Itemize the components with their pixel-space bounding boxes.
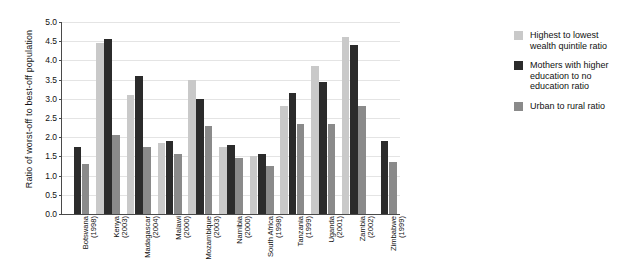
x-tick-year: (1999) [398,216,406,278]
y-axis-title: Ratio of worst-off to best-off populatio… [24,4,34,214]
x-tick-label: Mozambique(2003) [205,216,222,278]
bar [342,37,350,214]
x-tick-year: (1998) [275,216,283,278]
x-tick-label: Uganda(2001) [328,216,345,278]
legend-swatch-icon [514,102,523,111]
x-tick-label: Madagascar(2004) [144,216,161,278]
bar [258,154,266,214]
x-tick-year: (2003) [214,216,222,278]
x-tick-label: Tanzania(1999) [297,216,314,278]
bar [205,126,213,214]
chart-legend: Highest to lowest wealth quintile ratioM… [514,30,622,121]
x-tick-label: South Africa(1998) [267,216,284,278]
x-axis-line [61,214,400,215]
y-tick-label: 5.0 [45,18,57,26]
bar [389,162,397,214]
bar [289,93,297,214]
x-tick-year: (2003) [121,216,129,278]
plot-area: 5.04.54.03.53.02.52.01.51.00.50.0 [62,22,400,214]
bar [235,158,243,214]
y-tick-label: 4.5 [45,37,57,45]
y-tick-label: 1.5 [45,152,57,160]
x-tick-year: (2000) [183,216,191,278]
x-tick-label: Botswana(1998) [82,216,99,278]
y-tick-label: 1.0 [45,172,57,180]
x-tick-year: (2001) [337,216,345,278]
bar-group [369,22,400,214]
bar [188,80,196,214]
y-tick-label: 2.0 [45,133,57,141]
y-tick-label: 0.5 [45,191,57,199]
x-tick-year: (2002) [367,216,375,278]
bar-group [339,22,370,214]
x-tick-year: (2000) [244,216,252,278]
legend-label: Highest to lowest wealth quintile ratio [530,30,607,51]
bar [127,95,135,214]
legend-item: Urban to rural ratio [514,101,622,112]
x-axis-labels: Botswana(1998)Kenya(2003)Madagascar(2004… [62,216,400,280]
bar [135,76,143,214]
bar-group [246,22,277,214]
bar [297,124,305,214]
bar [96,43,104,214]
bar-group [185,22,216,214]
bar [328,124,336,214]
bar [358,106,366,214]
x-tick-year: (2004) [152,216,160,278]
bar-group [62,22,93,214]
bar [196,99,204,214]
bar [266,166,274,214]
bar [350,45,358,214]
bar [74,147,82,214]
y-tick-mark [59,214,62,215]
legend-label: Urban to rural ratio [530,101,605,111]
bar [82,164,90,214]
x-tick-label: Namibia(2000) [236,216,253,278]
bar [280,106,288,214]
y-tick-label: 0.0 [45,210,57,218]
legend-swatch-icon [514,31,523,40]
y-tick-label: 3.5 [45,76,57,84]
bar-chart: Ratio of worst-off to best-off populatio… [0,0,626,280]
bar [311,66,319,214]
bar [174,154,182,214]
bar [381,141,389,214]
y-tick-label: 4.0 [45,56,57,64]
y-tick-label: 3.0 [45,95,57,103]
legend-item: Mothers with higher education to no educ… [514,60,622,92]
legend-item: Highest to lowest wealth quintile ratio [514,30,622,51]
bar [143,147,151,214]
y-tick-label: 2.5 [45,114,57,122]
x-tick-year: (1999) [306,216,314,278]
x-tick-label: Kenya(2003) [113,216,130,278]
bar-group [154,22,185,214]
x-tick-label: Malawi(2000) [175,216,192,278]
bar [319,82,327,214]
bar-group [123,22,154,214]
bar [104,39,112,214]
bar [219,147,227,214]
bar-group [277,22,308,214]
bar [158,143,166,214]
bar-group [93,22,124,214]
bar-group [216,22,247,214]
legend-swatch-icon [514,61,523,70]
x-tick-year: (1998) [91,216,99,278]
bar [227,145,235,214]
bar [250,156,258,214]
x-tick-label: Zambia(2002) [359,216,376,278]
bar [166,141,174,214]
legend-label: Mothers with higher education to no educ… [530,60,609,91]
bar-group [308,22,339,214]
x-tick-label: Zimbabwe(1999) [390,216,407,278]
bar [112,135,120,214]
